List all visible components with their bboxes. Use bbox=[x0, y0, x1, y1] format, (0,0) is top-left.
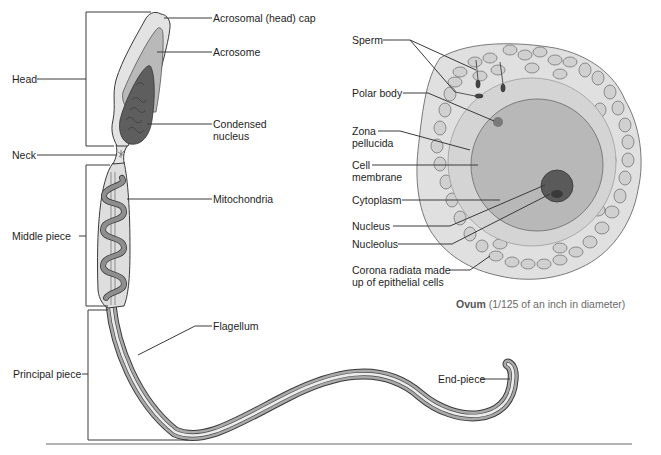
label-polar-body: Polar body bbox=[352, 87, 402, 99]
sperm-ovum-diagram: Head Neck Middle piece Principal piece A… bbox=[0, 0, 661, 455]
label-corona-radiata: Corona radiata made up of epithelial cel… bbox=[352, 264, 451, 288]
ovum-caption: Ovum (1/125 of an inch in diameter) bbox=[456, 298, 625, 310]
polar-body-shape bbox=[493, 117, 503, 127]
label-zona-pellucida: Zona pellucida bbox=[352, 125, 393, 149]
diagram-canvas bbox=[0, 0, 661, 455]
ovum-caption-rest: (1/125 of an inch in diameter) bbox=[486, 298, 626, 310]
nucleolus-shape bbox=[551, 190, 563, 198]
label-acrosome: Acrosome bbox=[213, 46, 260, 58]
label-head: Head bbox=[12, 73, 37, 85]
label-sperm: Sperm bbox=[352, 34, 383, 46]
label-condensed-nucleus: Condensed nucleus bbox=[213, 118, 267, 142]
label-cytoplasm: Cytoplasm bbox=[352, 194, 402, 206]
ovum-caption-bold: Ovum bbox=[456, 298, 486, 310]
label-nucleus: Nucleus bbox=[352, 220, 390, 232]
label-flagellum: Flagellum bbox=[213, 320, 259, 332]
label-principal-piece: Principal piece bbox=[13, 368, 81, 380]
label-end-piece: End-piece bbox=[438, 373, 485, 385]
label-middle-piece: Middle piece bbox=[12, 230, 71, 242]
cytoplasm-shape bbox=[471, 99, 603, 231]
label-mitochondria: Mitochondria bbox=[213, 193, 273, 205]
label-nucleolus: Nucleolus bbox=[352, 238, 398, 250]
label-cell-membrane: Cell membrane bbox=[352, 159, 402, 183]
label-neck: Neck bbox=[12, 149, 36, 161]
label-acrosomal-cap: Acrosomal (head) cap bbox=[213, 12, 316, 24]
flagellum-shape bbox=[111, 305, 513, 436]
